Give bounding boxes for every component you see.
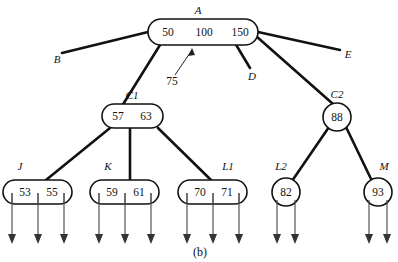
node-c1-label: C1 [126,89,139,101]
node-c2-key-0: 88 [331,111,343,123]
node-j-label: J [18,160,24,172]
node-k-key-0: 59 [106,186,118,198]
annotation-75-leader [175,48,195,75]
edge-c1-to-l1 [158,128,212,181]
node-c2[interactable]: 88 [323,103,351,131]
node-c1-key-0: 57 [112,110,124,122]
annotation-d: D [247,70,256,82]
annotation-e: E [344,48,352,60]
edge-a-to-b [62,32,148,53]
tree-edges [46,32,372,181]
edge-c2-to-l2 [292,127,329,181]
node-c2-label: C2 [331,88,344,100]
node-j-key-1: 55 [46,186,58,198]
node-k-key-1: 61 [133,186,145,198]
node-c1[interactable]: 57 63 [102,104,163,128]
node-l1-label: L1 [221,160,234,172]
node-m[interactable]: 93 [364,178,392,206]
node-a[interactable]: 50 100 150 [148,19,258,45]
node-j-key-0: 53 [19,186,31,198]
node-m-label: M [378,160,389,172]
node-m-key-0: 93 [372,186,384,198]
node-c1-shape [102,104,163,128]
node-l2-label: L2 [274,160,287,172]
figure-caption: (b) [193,245,207,259]
node-a-key-2: 150 [231,26,249,38]
node-c1-key-1: 63 [140,110,152,122]
edge-c1-to-j [46,128,110,180]
node-k-label: K [103,160,112,172]
node-l1-key-1: 71 [221,186,233,198]
node-l2-key-0: 82 [280,186,292,198]
b-plus-tree-figure: 50 100 150 A 57 63 C1 88 C2 53 55 J [0,0,398,262]
annotation-b: B [54,53,61,65]
node-l2[interactable]: 82 [272,178,300,206]
node-l1-key-0: 70 [194,186,206,198]
node-a-key-0: 50 [162,26,174,38]
annotation-75: 75 [166,75,178,87]
node-a-key-1: 100 [195,26,213,38]
edge-c2-to-m [346,127,372,181]
node-a-label: A [194,4,202,16]
